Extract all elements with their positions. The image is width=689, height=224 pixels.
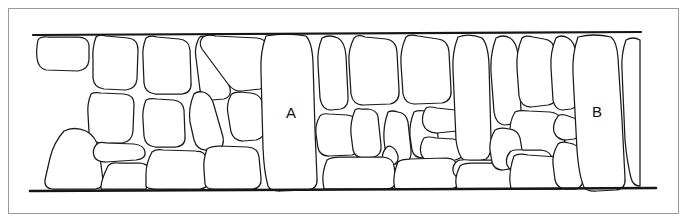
masonry-wall-drawing: A B (0, 0, 689, 224)
stone (204, 146, 261, 189)
stone (93, 142, 145, 162)
stone (190, 92, 224, 150)
stone (146, 150, 209, 189)
stone (349, 36, 399, 105)
orthostat-a-label: A (286, 104, 296, 121)
stone (318, 36, 348, 110)
stone (101, 163, 149, 189)
stone (394, 158, 459, 189)
stone (88, 93, 134, 143)
stone (37, 37, 89, 71)
stone (227, 92, 264, 141)
stone (143, 99, 185, 147)
stone-outlines (37, 34, 640, 191)
stone (453, 35, 491, 161)
stone (93, 35, 138, 90)
stone (351, 109, 381, 158)
stone (143, 36, 191, 94)
top-course-line (33, 32, 641, 35)
orthostat-b-label: B (592, 103, 602, 120)
stone (45, 129, 103, 190)
stone (401, 35, 451, 104)
stone (323, 157, 396, 189)
figure-container: A B (0, 0, 689, 224)
